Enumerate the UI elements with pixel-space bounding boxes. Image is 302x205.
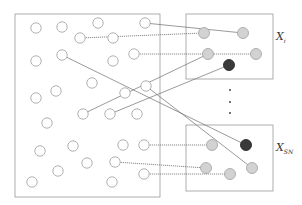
sampled-node xyxy=(225,169,236,180)
population-node xyxy=(53,166,63,176)
population-node xyxy=(107,177,117,187)
ellipsis-dot xyxy=(229,89,231,91)
population-node xyxy=(129,49,139,59)
population-node xyxy=(110,157,120,167)
ellipsis-dot xyxy=(229,101,231,103)
population-node xyxy=(132,109,142,119)
population-node xyxy=(87,78,97,88)
population-box xyxy=(15,14,160,197)
population-node xyxy=(68,141,78,151)
population-node xyxy=(57,50,67,60)
population-node xyxy=(27,177,37,187)
nodes xyxy=(27,18,262,187)
subset-label-xi: Xi xyxy=(276,30,286,44)
population-node xyxy=(31,23,41,33)
population-node xyxy=(93,18,103,28)
population-node xyxy=(35,146,45,156)
population-node xyxy=(139,169,149,179)
population-node xyxy=(31,93,41,103)
sampled-node xyxy=(251,49,262,60)
population-node xyxy=(140,18,150,28)
sampled-node xyxy=(199,28,210,39)
population-node xyxy=(105,109,115,119)
diagram-canvas xyxy=(0,0,302,205)
subset-box-xsn xyxy=(186,125,273,191)
sampled-node xyxy=(207,140,218,151)
highlighted-node xyxy=(224,60,235,71)
population-node xyxy=(120,88,130,98)
population-node xyxy=(108,33,118,43)
subset-label-xi-sub: i xyxy=(284,37,286,44)
sampled-node xyxy=(238,28,249,39)
subset-label-xsn-main: X xyxy=(276,141,284,154)
ellipsis-dots xyxy=(229,89,231,114)
sampled-node xyxy=(247,163,258,174)
population-node xyxy=(57,22,67,32)
population-node xyxy=(42,118,52,128)
mapping-edge xyxy=(80,33,204,38)
population-node xyxy=(31,56,41,66)
highlighted-node xyxy=(241,140,252,151)
subset-label-xsn-sub: SN xyxy=(284,148,293,155)
mapping-edge xyxy=(146,86,252,168)
subset-label-xi-main: X xyxy=(276,30,284,43)
population-node xyxy=(139,140,149,150)
mapping-edge xyxy=(62,55,246,145)
population-node xyxy=(78,109,88,119)
sampled-node xyxy=(203,49,214,60)
population-node xyxy=(51,86,61,96)
population-node xyxy=(82,158,92,168)
ellipsis-dot xyxy=(229,112,231,114)
population-node xyxy=(118,140,128,150)
edges xyxy=(62,23,256,174)
subset-label-xsn: XSN xyxy=(276,141,293,155)
population-node xyxy=(75,33,85,43)
sampled-node xyxy=(201,163,212,174)
mapping-edge xyxy=(115,162,206,168)
population-node xyxy=(108,56,118,66)
population-node xyxy=(141,81,151,91)
